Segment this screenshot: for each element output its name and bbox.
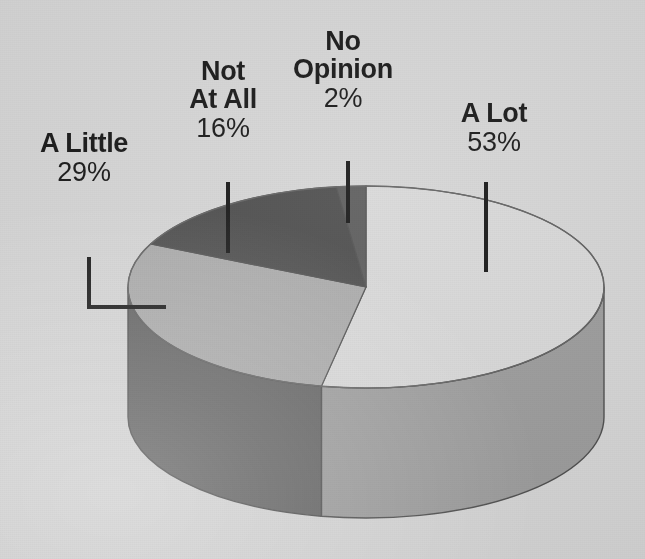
label-a-little: A Little 29% bbox=[14, 130, 154, 187]
label-not-at-all-name-line1: Not bbox=[168, 58, 278, 86]
label-no-opinion-name-line2: Opinion bbox=[268, 56, 418, 84]
label-not-at-all-name-line2: At All bbox=[168, 86, 278, 114]
pie-top-face bbox=[128, 186, 604, 388]
pie-chart-figure: A Lot 53% No Opinion 2% Not At All 16% A… bbox=[0, 0, 645, 559]
label-no-opinion: No Opinion 2% bbox=[268, 28, 418, 112]
label-no-opinion-value: 2% bbox=[268, 85, 418, 113]
label-no-opinion-name-line1: No bbox=[268, 28, 418, 56]
label-not-at-all-value: 16% bbox=[168, 115, 278, 143]
label-a-little-value: 29% bbox=[14, 159, 154, 187]
label-a-lot-value: 53% bbox=[424, 129, 564, 157]
label-a-little-name: A Little bbox=[14, 130, 154, 158]
label-a-lot: A Lot 53% bbox=[424, 100, 564, 157]
label-a-lot-name: A Lot bbox=[424, 100, 564, 128]
label-not-at-all: Not At All 16% bbox=[168, 58, 278, 142]
